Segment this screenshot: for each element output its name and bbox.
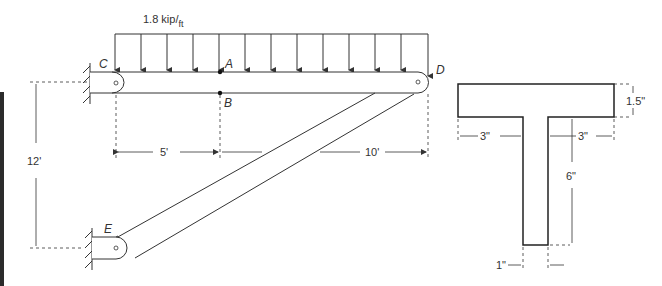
dim-right-overhang: 3" xyxy=(578,130,588,142)
truss-beam-diagram: 1.8 kip/ft C A B D E xyxy=(0,0,662,286)
t-section xyxy=(458,84,614,245)
dim-web-height: 6" xyxy=(566,170,576,182)
strut-ed xyxy=(116,93,414,258)
dim-left-overhang: 3" xyxy=(480,130,490,142)
label-d: D xyxy=(436,63,445,77)
label-c: C xyxy=(99,57,108,71)
label-b: B xyxy=(224,96,232,110)
label-a: A xyxy=(224,57,233,71)
dim-right-span: 10' xyxy=(365,146,379,158)
label-e: E xyxy=(104,222,113,236)
distributed-load xyxy=(115,34,428,76)
strut-end-e xyxy=(92,237,127,259)
wall-support-c xyxy=(83,63,90,104)
beam-cd xyxy=(90,72,429,93)
dim-web-width: 1" xyxy=(496,259,506,271)
point-a xyxy=(218,70,222,74)
edge-bar xyxy=(0,92,4,286)
dim-height: 12' xyxy=(27,155,41,167)
dim-left-span: 5' xyxy=(160,146,168,158)
dim-flange-thickness: 1.5" xyxy=(626,95,645,107)
wall-support-e xyxy=(85,228,92,270)
point-b xyxy=(218,91,222,95)
load-label: 1.8 kip/ft xyxy=(143,13,184,29)
